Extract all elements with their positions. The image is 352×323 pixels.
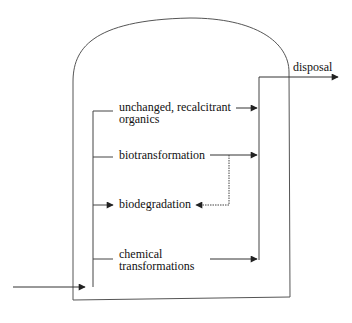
label-disposal: disposal <box>293 61 332 73</box>
arrow-biotransformation-to-biodegradation <box>196 155 229 205</box>
label-chemical-line2: transformations <box>119 260 194 272</box>
reactor-diagram: unchanged, recalcitrant organics biotran… <box>0 0 352 323</box>
label-unchanged-line2: organics <box>119 113 159 125</box>
label-biotransformation: biotransformation <box>119 149 205 161</box>
label-biodegradation: biodegradation <box>119 198 191 210</box>
